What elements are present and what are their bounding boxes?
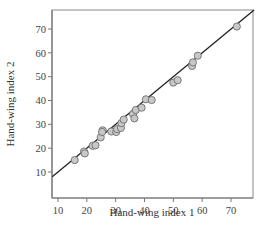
data-point [99,128,106,135]
y-tick-label: 20 [36,143,47,154]
plot-area [52,10,253,198]
scatter-chart: 10203040506070 10203040506070 Hand-wing … [0,0,266,225]
x-tick-label: 20 [82,205,93,216]
x-tick-label: 70 [226,205,237,216]
y-tick-label: 30 [36,119,47,130]
y-tick-label: 50 [36,71,47,82]
data-point [233,23,240,30]
data-point [174,77,181,84]
data-point [189,59,196,66]
x-tick-label: 60 [197,205,208,216]
y-tick-label: 10 [36,167,47,178]
y-tick-label: 60 [36,48,47,59]
data-point [131,115,138,122]
data-point [148,96,155,103]
y-tick-label: 40 [36,95,47,106]
x-axis-label: Hand-wing index 1 [110,206,195,218]
plot-frame [52,10,253,198]
data-point [120,116,127,123]
y-axis-label: Hand-wing index 2 [4,62,16,147]
data-point [194,52,201,59]
y-axis-ticks: 10203040506070 [36,24,53,178]
data-point [71,157,78,164]
data-point [92,142,99,149]
y-tick-label: 70 [36,24,47,35]
x-tick-label: 10 [53,205,64,216]
data-point [81,150,88,157]
data-point [138,104,145,111]
